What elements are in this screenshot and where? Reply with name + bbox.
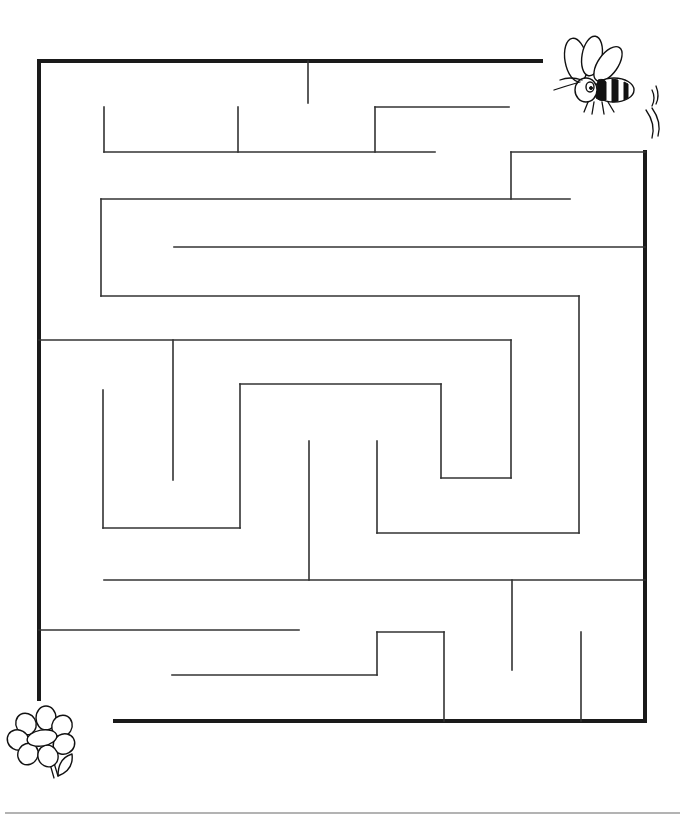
bee-icon: [554, 35, 659, 138]
maze-puzzle[interactable]: [0, 0, 685, 819]
flower-icon: [3, 706, 78, 778]
maze-walls: [39, 61, 645, 721]
maze-outer-border: [39, 61, 645, 721]
